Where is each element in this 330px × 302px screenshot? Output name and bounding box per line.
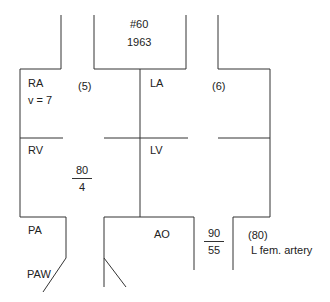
- femoral-pressure: (80): [248, 229, 268, 242]
- aorta-diagonal: [104, 258, 126, 287]
- pa-label: PA: [28, 224, 42, 237]
- lv-label: LV: [150, 144, 163, 157]
- ao-label: AO: [154, 228, 170, 241]
- ra-label: RA: [28, 77, 43, 90]
- record-year: 1963: [127, 36, 151, 49]
- la-pressure: (6): [212, 80, 225, 93]
- rv-label: RV: [28, 144, 43, 157]
- paw-label: PAW: [27, 268, 51, 281]
- femoral-label: L fem. artery: [251, 244, 312, 257]
- record-id: #60: [130, 18, 148, 31]
- la-label: LA: [150, 77, 163, 90]
- ra-pressure: (5): [78, 80, 91, 93]
- ao-pressure: 90 55: [204, 227, 224, 257]
- rv-pressure: 80 4: [72, 164, 92, 194]
- ra-v-wave: v = 7: [28, 94, 52, 107]
